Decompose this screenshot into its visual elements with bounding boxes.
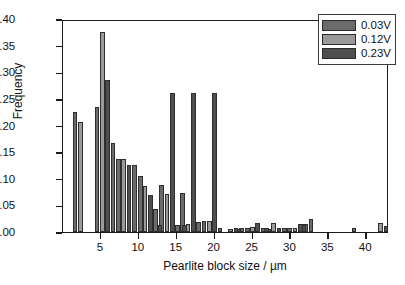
- bar: [182, 225, 187, 232]
- x-tick-label: 15: [169, 241, 182, 253]
- x-tick-label: 35: [321, 241, 334, 253]
- bar: [287, 228, 292, 232]
- bar: [95, 107, 100, 232]
- bar: [191, 93, 196, 232]
- y-tick-label: 0.35: [0, 41, 15, 53]
- bar: [73, 112, 78, 232]
- bar: [309, 219, 314, 232]
- x-tick-label: 40: [359, 241, 372, 253]
- bar: [127, 165, 132, 232]
- chart-figure: Frequency 0.000.050.100.150.200.250.300.…: [0, 0, 405, 285]
- bar: [271, 223, 276, 232]
- bar: [255, 223, 260, 232]
- bar: [202, 221, 207, 232]
- bar: [237, 229, 242, 232]
- legend-label: 0.12V: [361, 34, 391, 46]
- bar: [302, 225, 307, 232]
- x-tick-mark: [327, 233, 328, 239]
- y-tick-label: 0.10: [0, 174, 15, 186]
- y-tick-label: 0.00: [0, 227, 15, 239]
- x-axis: Pearlite block size / µm 510152025303540: [62, 233, 388, 285]
- bar: [277, 228, 282, 232]
- bar: [352, 228, 357, 232]
- y-tick-label: 0.20: [0, 121, 15, 133]
- y-tick-label: 0.05: [0, 201, 15, 213]
- bar: [105, 80, 110, 232]
- legend-swatch: [322, 48, 356, 59]
- bar: [143, 186, 148, 232]
- y-tick-label: 0.40: [0, 14, 15, 26]
- legend-swatch: [322, 34, 356, 45]
- bar: [264, 228, 269, 232]
- bar: [228, 229, 233, 232]
- legend-swatch: [322, 20, 356, 31]
- bar: [196, 222, 201, 232]
- bar: [207, 221, 212, 232]
- bar: [116, 159, 121, 232]
- y-tick-label: 0.30: [0, 68, 15, 80]
- bar: [218, 228, 223, 232]
- x-tick-mark: [100, 233, 101, 239]
- x-tick-label: 10: [131, 241, 144, 253]
- bar: [121, 159, 126, 232]
- bar: [282, 228, 287, 232]
- x-tick-mark: [176, 233, 177, 239]
- x-tick-label: 25: [245, 241, 258, 253]
- legend-item: 0.23V: [322, 47, 391, 60]
- bar: [111, 143, 116, 232]
- x-tick-mark: [365, 233, 366, 239]
- y-axis: Frequency 0.000.050.100.150.200.250.300.…: [0, 0, 62, 253]
- x-tick-label: 30: [283, 241, 296, 253]
- x-tick-label: 20: [207, 241, 220, 253]
- x-tick-mark: [214, 233, 215, 239]
- x-tick-mark: [138, 233, 139, 239]
- bar: [212, 93, 217, 232]
- x-tick-mark: [252, 233, 253, 239]
- bar: [245, 228, 250, 232]
- legend-item: 0.03V: [322, 19, 391, 32]
- bar: [132, 165, 137, 232]
- bar: [384, 226, 389, 232]
- x-axis-title: Pearlite block size / µm: [62, 259, 388, 273]
- bar: [78, 122, 83, 232]
- legend-label: 0.03V: [361, 20, 391, 32]
- bar: [175, 225, 180, 232]
- legend-label: 0.23V: [361, 48, 391, 60]
- legend-item: 0.12V: [322, 33, 391, 46]
- bar: [378, 223, 383, 232]
- bar: [165, 194, 170, 232]
- bar: [148, 195, 153, 232]
- chart-legend: 0.03V0.12V0.23V: [318, 14, 396, 65]
- bar: [293, 228, 298, 232]
- y-tick-label: 0.15: [0, 147, 15, 159]
- bar: [250, 227, 255, 232]
- bar: [158, 225, 163, 232]
- x-tick-mark: [289, 233, 290, 239]
- bar: [170, 93, 175, 232]
- x-tick-label: 5: [97, 241, 103, 253]
- y-tick-label: 0.25: [0, 94, 15, 106]
- bar: [100, 32, 105, 232]
